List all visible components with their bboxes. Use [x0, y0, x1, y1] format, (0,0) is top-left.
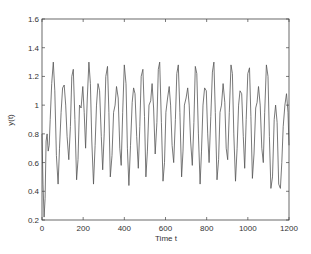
y-tick-label: 1.6: [28, 15, 40, 24]
y-tick-label: 0.4: [28, 187, 40, 196]
x-tick-label: 600: [159, 224, 173, 233]
x-tick-label: 1200: [280, 224, 298, 233]
y-tick-label: 0.8: [28, 130, 40, 139]
y-tick-label: 1.4: [28, 44, 40, 53]
y-tick-label: 1.2: [28, 72, 40, 81]
y-axis-label: y(t): [6, 114, 15, 126]
x-tick-label: 800: [200, 224, 214, 233]
x-tick-label: 1000: [239, 224, 257, 233]
x-tick-label: 200: [76, 224, 90, 233]
x-axis-label: Time t: [155, 234, 178, 243]
x-tick-label: 400: [118, 224, 132, 233]
line-chart: 020040060080010001200 0.20.40.60.811.21.…: [0, 0, 311, 254]
y-tick-label: 0.6: [28, 159, 40, 168]
y-tick-label: 1: [35, 101, 40, 110]
x-tick-label: 0: [40, 224, 45, 233]
y-tick-label: 0.2: [28, 216, 40, 225]
